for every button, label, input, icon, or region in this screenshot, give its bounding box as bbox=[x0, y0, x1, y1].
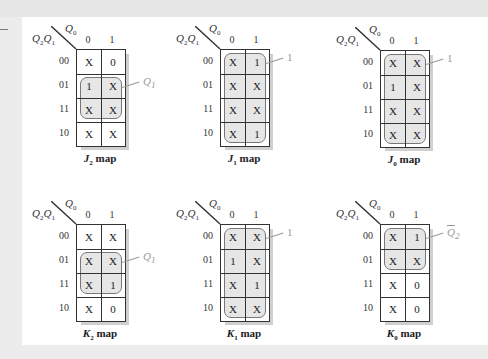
col-variable-label: Q0 bbox=[369, 23, 380, 38]
kmap-cell: X bbox=[381, 123, 405, 147]
row-header: 10 bbox=[193, 127, 213, 138]
row-header: 00 bbox=[353, 230, 373, 241]
row-header: 11 bbox=[353, 104, 373, 115]
map-title: J1 map bbox=[214, 152, 274, 167]
row-header: 01 bbox=[193, 254, 213, 265]
q0-text: Q0 bbox=[65, 197, 76, 209]
kmap-cell: X bbox=[77, 225, 101, 249]
col-variable-label: Q0 bbox=[369, 197, 380, 212]
kmap-cell: X bbox=[77, 122, 101, 146]
kmap-cell: 1 bbox=[245, 273, 269, 297]
kmap-cell: X bbox=[405, 123, 429, 147]
kmap-cell: X bbox=[405, 249, 429, 273]
kmap-cell: X bbox=[245, 98, 269, 122]
row-header: 10 bbox=[49, 127, 69, 138]
row-header: 10 bbox=[49, 302, 69, 313]
map-title: K1 map bbox=[214, 327, 274, 342]
row-header: 11 bbox=[353, 278, 373, 289]
kmap-cell: X bbox=[101, 122, 125, 146]
row-header: 01 bbox=[49, 79, 69, 90]
q2-text: Q2 bbox=[32, 207, 43, 219]
q0-text: Q0 bbox=[369, 23, 380, 35]
map-title: J2 map bbox=[70, 152, 130, 167]
row-variable-label: Q2Q1 bbox=[176, 207, 199, 222]
column-header: 0 bbox=[220, 34, 244, 45]
kmap-cell: X bbox=[77, 297, 101, 321]
kmap-grid: XXXXX1X0 bbox=[76, 224, 126, 322]
kmap-cell: 1 bbox=[101, 273, 125, 297]
kmap-cell: X bbox=[77, 273, 101, 297]
row-header: 10 bbox=[193, 302, 213, 313]
kmap-cell: X bbox=[245, 249, 269, 273]
group-label: 1 bbox=[287, 51, 293, 63]
row-header: 01 bbox=[353, 254, 373, 265]
row-header: 01 bbox=[353, 80, 373, 91]
row-header: 01 bbox=[193, 79, 213, 90]
map-title: J0 map bbox=[374, 153, 434, 168]
q0-text: Q0 bbox=[209, 197, 220, 209]
kmap-cell: X bbox=[221, 297, 245, 321]
kmap-cell: X bbox=[381, 99, 405, 123]
map-title: K2 map bbox=[70, 327, 130, 342]
kmap-cell: X bbox=[245, 74, 269, 98]
col-variable-label: Q0 bbox=[65, 197, 76, 212]
kmap-grid: X01XXXXX bbox=[76, 49, 126, 147]
q1-text: Q1 bbox=[187, 32, 198, 44]
column-header: 0 bbox=[380, 209, 404, 220]
kmap-cell: X bbox=[405, 99, 429, 123]
kmap-grid: XX1XX1XX bbox=[220, 224, 270, 322]
kmap-grid: X1XXXXX1 bbox=[220, 49, 270, 147]
kmap-cell: 0 bbox=[101, 50, 125, 74]
column-header: 0 bbox=[76, 209, 100, 220]
row-header: 00 bbox=[49, 230, 69, 241]
q1-text: Q1 bbox=[43, 32, 54, 44]
q1-text: Q1 bbox=[43, 207, 54, 219]
q0-text: Q0 bbox=[209, 22, 220, 34]
q0-text: Q0 bbox=[369, 197, 380, 209]
row-header: 00 bbox=[193, 230, 213, 241]
col-variable-label: Q0 bbox=[209, 22, 220, 37]
q0-text: Q0 bbox=[65, 22, 76, 34]
kmap-cell: 1 bbox=[381, 75, 405, 99]
row-header: 11 bbox=[49, 278, 69, 289]
kmap-cell: X bbox=[221, 98, 245, 122]
row-header: 11 bbox=[193, 278, 213, 289]
kmap-cell: X bbox=[381, 297, 405, 321]
column-header: 0 bbox=[76, 34, 100, 45]
kmap-cell: 0 bbox=[101, 297, 125, 321]
kmap-cell: X bbox=[381, 249, 405, 273]
kmap-cell: X bbox=[221, 74, 245, 98]
row-header: 11 bbox=[193, 103, 213, 114]
column-header: 0 bbox=[380, 35, 404, 46]
kmap-cell: 1 bbox=[245, 122, 269, 146]
q1-text: Q1 bbox=[187, 207, 198, 219]
q1-text: Q1 bbox=[347, 33, 358, 45]
row-variable-label: Q2Q1 bbox=[32, 207, 55, 222]
row-header: 10 bbox=[353, 302, 373, 313]
row-header: 00 bbox=[49, 55, 69, 66]
kmap-cell: X bbox=[405, 75, 429, 99]
kmap-cell: X bbox=[221, 273, 245, 297]
kmap-cell: X bbox=[101, 98, 125, 122]
column-header: 1 bbox=[100, 34, 124, 45]
row-variable-label: Q2Q1 bbox=[176, 32, 199, 47]
kmap-cell: X bbox=[77, 249, 101, 273]
kmap-cell: X bbox=[101, 225, 125, 249]
q2-text: Q2 bbox=[336, 207, 347, 219]
kmap-cell: X bbox=[381, 225, 405, 249]
kmap-grid: X1XXX0X0 bbox=[380, 224, 430, 322]
group-label: Q1 bbox=[143, 75, 156, 90]
group-label: 1 bbox=[447, 52, 453, 64]
column-header: 1 bbox=[404, 209, 428, 220]
kmap-cell: 1 bbox=[77, 74, 101, 98]
kmap-cell: X bbox=[221, 50, 245, 74]
column-header: 0 bbox=[220, 209, 244, 220]
group-label: Q2 bbox=[447, 226, 460, 241]
group-label: 1 bbox=[287, 226, 293, 238]
row-variable-label: Q2Q1 bbox=[336, 33, 359, 48]
kmap-cell: X bbox=[381, 273, 405, 297]
kmap-cell: X bbox=[245, 297, 269, 321]
top-band bbox=[0, 0, 488, 17]
row-variable-label: Q2Q1 bbox=[32, 32, 55, 47]
kmap-cell: 0 bbox=[405, 273, 429, 297]
